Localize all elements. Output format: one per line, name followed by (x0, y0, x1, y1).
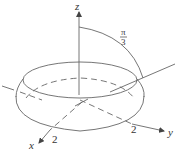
top-rim-ellipse (23, 62, 137, 98)
y-axis-label: y (167, 126, 173, 138)
angle-denominator: 3 (121, 37, 126, 47)
inner-dashed-ring (26, 78, 134, 98)
origin-segment (75, 99, 88, 106)
x-tick-label: 2 (52, 133, 58, 145)
y-axis (132, 124, 164, 131)
x-axis (39, 130, 50, 143)
axis-dashed-left (20, 92, 42, 100)
angle-numerator: π (121, 27, 126, 37)
x-axis-label: x (28, 139, 34, 151)
diagram-canvas: z y x 2 2 π 3 (0, 0, 182, 154)
axis-extension-left (2, 86, 14, 90)
y-axis-dashed (80, 100, 132, 124)
z-axis-label: z (74, 0, 80, 12)
y-tick-label: 2 (131, 123, 137, 135)
solid-bottom-outline (16, 96, 144, 131)
solid-right-side (137, 79, 144, 97)
solid-left-side (16, 79, 23, 97)
x-axis-dashed (50, 102, 82, 130)
angle-arc (79, 27, 143, 78)
